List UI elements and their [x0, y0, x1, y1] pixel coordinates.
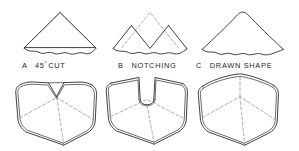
caption-a-degree-symbol: °	[45, 60, 47, 66]
right-inner-body-c	[245, 87, 277, 143]
top-rim-c	[203, 74, 274, 86]
hidden-corner-b	[147, 105, 154, 142]
hidden-corner-lower-c	[240, 97, 245, 144]
illustration-canvas: A 45°CUT B NOTCHING C DRAWN SHAPE	[0, 0, 299, 151]
drawn-apex-c	[203, 12, 284, 49]
formed-part-drawn	[198, 74, 278, 145]
hidden-base-a	[20, 98, 93, 120]
top-rim-left-a	[21, 82, 57, 97]
top-rim-left-inner-a	[21, 84, 56, 98]
u-slot-b	[140, 100, 154, 105]
caption-c-value: DRAWN SHAPE	[210, 61, 272, 70]
formed-part-notched	[106, 78, 187, 145]
technical-illustration: A 45°CUT B NOTCHING C DRAWN SHAPE	[0, 0, 299, 151]
torn-edge-a	[24, 48, 96, 54]
caption-b-value: NOTCHING	[131, 61, 176, 70]
right-outer-body-a	[64, 85, 97, 145]
right-edge-b	[169, 26, 187, 49]
torn-edge-b	[113, 49, 187, 54]
caption-c: C DRAWN SHAPE	[196, 61, 272, 70]
left-outer-body-a	[16, 85, 64, 146]
left-outer-body-b	[106, 83, 154, 144]
right-inner-body-a	[64, 87, 95, 144]
left-inner-body-b	[108, 85, 154, 142]
flat-pattern-notching	[113, 13, 187, 54]
left-outer-body-c	[198, 86, 244, 145]
caption-a: A 45°CUT	[22, 60, 65, 70]
caption-b: B NOTCHING	[118, 61, 176, 70]
right-inner-body-b	[154, 85, 185, 142]
top-rim-left-b	[111, 78, 140, 101]
caption-a-prefix: A	[22, 61, 27, 70]
hidden-corner-a	[57, 98, 64, 144]
formed-part-45-degree-cut	[16, 82, 97, 145]
apex-construction-dashed-b	[122, 13, 178, 48]
left-edge-a	[25, 13, 61, 48]
hidden-base-b	[110, 100, 184, 119]
top-rim-left-inner-b	[112, 80, 139, 100]
torn-edge-c	[202, 49, 283, 54]
caption-a-value: 45	[35, 61, 45, 70]
hidden-base-c	[202, 97, 275, 120]
right-outer-body-b	[154, 84, 187, 145]
flat-pattern-45-degree-cut	[24, 13, 96, 55]
top-rim-right-inner-b	[155, 80, 182, 100]
caption-c-prefix: C	[196, 61, 202, 70]
top-rim-inner-c	[204, 77, 273, 88]
left-inner-body-c	[200, 88, 244, 143]
right-outer-body-c	[245, 86, 279, 146]
right-edge-a	[60, 13, 96, 48]
apex-construction-dashed-a	[25, 13, 96, 48]
top-rim-right-b	[154, 78, 183, 101]
caption-a-suffix: CUT	[48, 61, 65, 70]
left-edge-b	[114, 26, 132, 49]
flat-pattern-drawn-shape	[202, 12, 283, 55]
caption-b-prefix: B	[118, 61, 124, 70]
